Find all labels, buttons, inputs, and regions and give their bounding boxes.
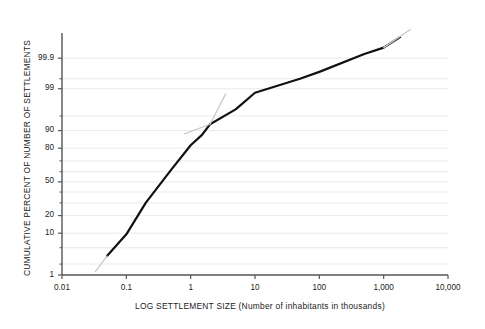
data-series <box>95 29 410 271</box>
x-tick-label: 1,000 <box>362 283 406 292</box>
series-line-0 <box>107 37 400 256</box>
series-line-3 <box>384 29 411 47</box>
x-tick-label: 0.01 <box>40 283 84 292</box>
x-tick-label: 10 <box>233 283 277 292</box>
x-tick-label: 0.1 <box>104 283 148 292</box>
plot-area <box>0 0 485 329</box>
gridlines <box>62 58 448 264</box>
x-axis-title: LOG SETTLEMENT SIZE (Number of inhabitan… <box>60 301 460 311</box>
chart-figure: 99.99990805020101 0.010.11101001,00010,0… <box>0 0 485 329</box>
axes <box>62 33 448 275</box>
x-tick-label: 10,000 <box>426 283 470 292</box>
x-tick-label: 100 <box>297 283 341 292</box>
series-line-2 <box>184 94 225 134</box>
y-axis-title: CUMULATIVE PERCENT OF NUMBER OF SETTLEME… <box>22 23 32 293</box>
x-tick-label: 1 <box>169 283 213 292</box>
